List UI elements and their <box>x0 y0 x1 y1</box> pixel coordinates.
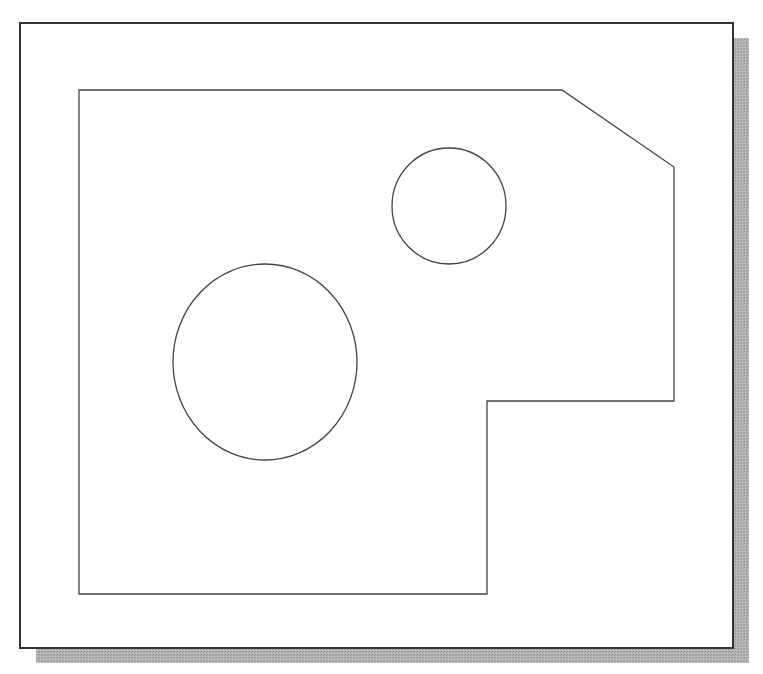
drawing-frame <box>20 23 733 648</box>
cad-drawing-canvas <box>0 0 763 674</box>
